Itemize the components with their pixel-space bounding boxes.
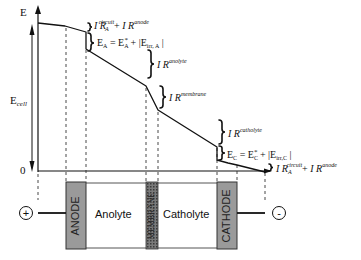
- brace-cathode-eq-icon: [219, 146, 225, 160]
- ecell-arrow-up-icon: [30, 24, 35, 35]
- brace-anode-ohmic-icon: [88, 23, 92, 31]
- brace-membrane-icon: [160, 86, 166, 108]
- brace-anode-eq-icon: [88, 33, 94, 51]
- y-axis-label: E: [20, 7, 27, 18]
- brace-catholyte-icon: [219, 120, 225, 144]
- zero-label: 0: [20, 165, 26, 176]
- brace-anolyte-icon: [148, 50, 154, 78]
- anolyte-ohmic-annotation: I Ranolyte: [157, 58, 187, 70]
- anolyte-label: Anolyte: [95, 208, 132, 220]
- membrane-ohmic-annotation: I Rmembrane: [169, 91, 206, 103]
- catholyte-label: Catholyte: [163, 208, 209, 220]
- y-axis-arrow-icon: [35, 5, 41, 14]
- cell-potential-diagram: [0, 0, 361, 260]
- brace-bottom-ohmic-icon: [269, 164, 273, 171]
- positive-terminal-icon: +: [19, 206, 33, 220]
- membrane-label: MEMBRANE: [147, 185, 157, 247]
- anode-ohmic-annotation: I RAcircuit+ I Ranode: [94, 19, 149, 32]
- bottom-ohmic-annotation: I RAcircuit+ I Ranode: [276, 162, 337, 175]
- ecell-arrow-down-icon: [30, 161, 35, 172]
- anode-equation: EA = EA* + |Eirr, A |: [97, 37, 164, 49]
- catholyte-ohmic-annotation: I Rcatholyte: [228, 127, 262, 139]
- ecell-label: Ecell: [10, 95, 27, 108]
- cathode-equation: EC = EC* + |Eirr,C |: [227, 149, 292, 161]
- negative-terminal-icon: -: [272, 206, 286, 220]
- cathode-label: CATHODE: [220, 184, 234, 248]
- anode-label: ANODE: [69, 188, 83, 244]
